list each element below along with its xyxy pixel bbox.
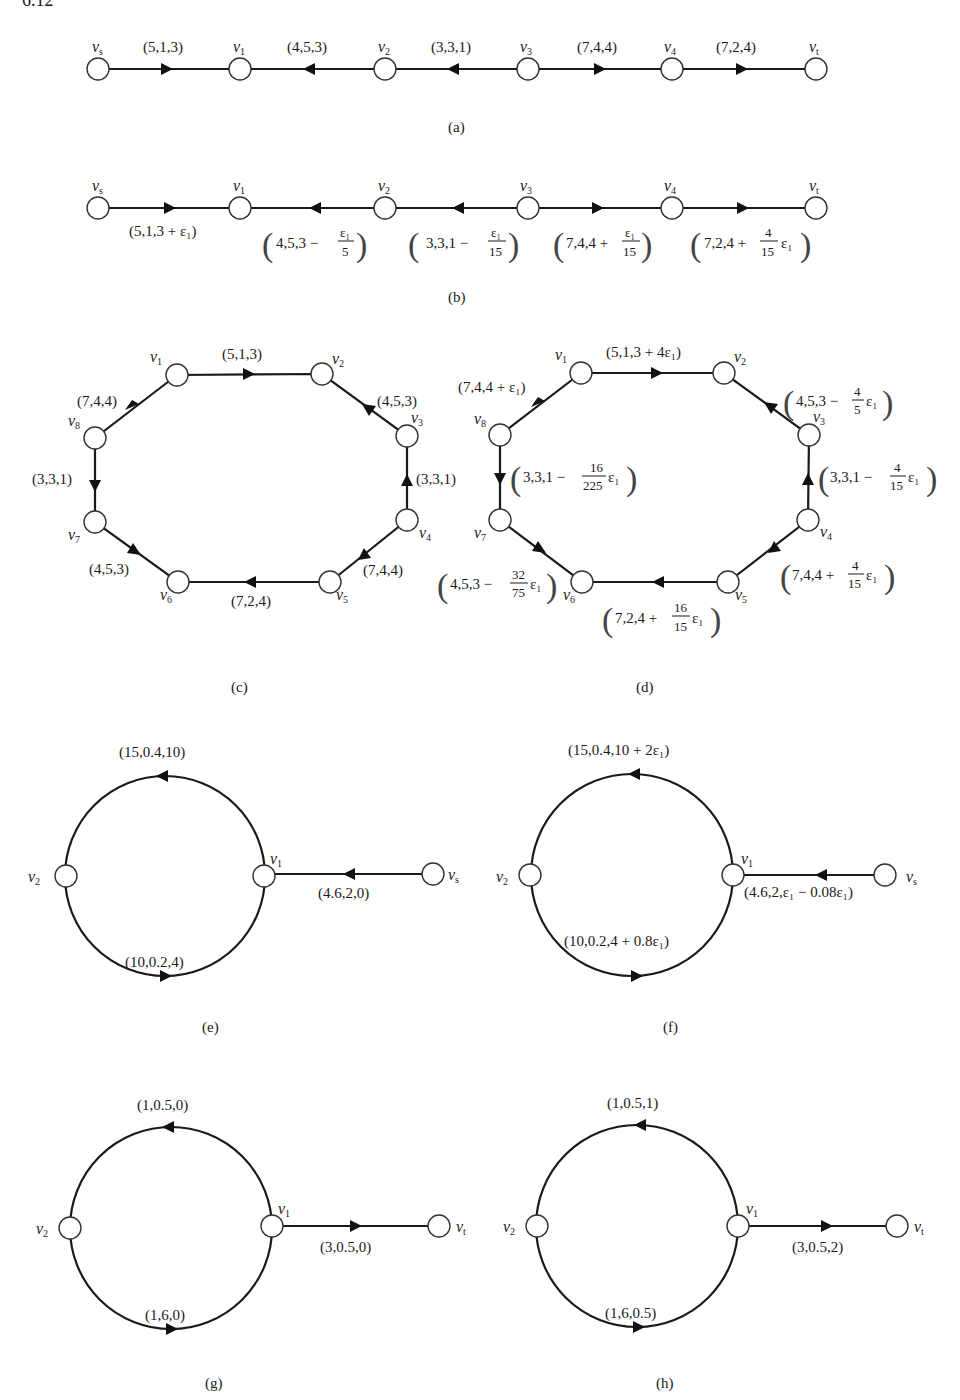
svg-text:15: 15: [890, 478, 903, 493]
svg-text:(: (: [783, 384, 794, 422]
cycle-circle: [536, 1125, 738, 1327]
arrow-up-left-icon: [362, 404, 376, 416]
svg-text:15: 15: [623, 244, 636, 259]
node-v1: [570, 362, 592, 384]
edge-label: (4,5,3): [89, 561, 129, 578]
svg-text:(: (: [437, 567, 448, 605]
svg-text:5: 5: [342, 244, 349, 259]
node-vt: [805, 197, 827, 219]
arrow-right-icon: [737, 202, 749, 214]
arrow-right-icon: [633, 1321, 645, 1333]
svg-text:(: (: [818, 460, 829, 498]
svg-text:): ): [626, 460, 637, 498]
arrow-left-icon: [815, 869, 827, 881]
edge-label-fraction: ( 3,3,1 − 4 15 ε₁ ): [818, 460, 937, 498]
arrow-right-icon: [821, 1220, 833, 1232]
panel-e: v2 v1 vs (15,0.4,10) (10,0.2,4) (4.6,2,0…: [28, 744, 459, 1036]
node-label-v2: v2: [503, 1218, 515, 1237]
svg-text:ε₁: ε₁: [491, 225, 501, 240]
node-label-v2: v2: [378, 38, 390, 57]
svg-text:32: 32: [512, 567, 525, 582]
node-v1: [253, 865, 275, 887]
arrow-left-icon: [244, 576, 256, 588]
panel-caption: (e): [202, 1019, 219, 1036]
svg-text:16: 16: [674, 600, 688, 615]
edge-label: (1,6,0): [145, 1307, 185, 1324]
node-label-v8: v8: [68, 412, 80, 431]
node-label-v1: v1: [150, 348, 162, 367]
arrow-right-icon: [161, 63, 173, 75]
svg-text:3,3,1 −: 3,3,1 −: [426, 235, 468, 251]
node-label-v2: v2: [378, 177, 390, 196]
edge-label: (7,2,4): [231, 593, 271, 610]
node-label-v2: v2: [28, 868, 40, 887]
svg-text:(: (: [553, 226, 564, 264]
node-label-vs: vs: [906, 868, 917, 887]
node-label-vt: vt: [456, 1218, 466, 1237]
node-label-v3: v3: [520, 38, 532, 57]
svg-text:3,3,1 −: 3,3,1 −: [523, 469, 565, 485]
svg-text:225: 225: [583, 478, 603, 493]
arrow-right-icon: [631, 970, 643, 982]
arrow-right-icon: [651, 367, 663, 379]
svg-text:ε₁: ε₁: [692, 610, 704, 626]
node-v1: [727, 1215, 749, 1237]
svg-text:(: (: [510, 460, 521, 498]
node-v3: [396, 425, 418, 447]
arrow-down-icon: [494, 473, 506, 485]
edge-label: (1,0.5,0): [137, 1097, 188, 1114]
edge-label: (3,3,1): [431, 39, 471, 56]
arrow-left-icon: [343, 868, 355, 880]
arrow-right-icon: [736, 63, 748, 75]
edge-label-fraction: ( 4,5,3 − ε₁ 5 ): [262, 225, 367, 264]
panel-caption: (a): [448, 119, 465, 136]
node-v8: [84, 427, 106, 449]
edge-label: (4,5,3): [287, 39, 327, 56]
node-label-vs: vs: [448, 866, 459, 885]
cycle-circle: [65, 776, 265, 976]
panel-a: vs v1 v2 v3 v4 vt (5,1,3) (4,5,3) (3,3,1…: [87, 38, 827, 136]
arrow-right-icon: [592, 202, 604, 214]
svg-text:7,2,4 +: 7,2,4 +: [704, 235, 746, 251]
edge-label: (3,0.5,2): [792, 1239, 843, 1256]
node-v4: [797, 509, 819, 531]
node-v2: [519, 864, 541, 886]
panel-caption: (c): [231, 679, 248, 696]
svg-text:4: 4: [765, 225, 772, 240]
svg-text:ε₁: ε₁: [866, 393, 878, 409]
svg-text:): ): [710, 601, 721, 639]
arrow-left-icon: [634, 1119, 646, 1131]
arrow-left-icon: [309, 202, 321, 214]
node-v1: [166, 364, 188, 386]
node-label-v3: v3: [411, 409, 423, 428]
figure-canvas: 6.12 vs v1 v2 v3 v4 vt (5,1,3) (4,5,3) (…: [0, 0, 960, 1400]
svg-text:): ): [800, 226, 811, 264]
svg-text:): ): [641, 226, 652, 264]
node-label-v4: v4: [664, 38, 676, 57]
svg-text:): ): [884, 558, 895, 596]
edge-label: (1,6,0.5): [605, 1305, 656, 1322]
svg-text:ε₁: ε₁: [908, 469, 920, 485]
svg-text:15: 15: [489, 244, 502, 259]
svg-text:ε₁: ε₁: [781, 235, 793, 251]
edge-label: (5,1,3): [143, 39, 183, 56]
node-label-vt: vt: [914, 1218, 924, 1237]
node-v2: [374, 58, 396, 80]
node-v6: [167, 571, 189, 593]
node-label-v1: v1: [278, 1200, 290, 1219]
node-vs: [87, 197, 109, 219]
arrow-left-icon: [447, 63, 459, 75]
node-v2: [526, 1215, 548, 1237]
arrow-left-icon: [303, 63, 315, 75]
panel-caption: (h): [656, 1375, 674, 1392]
edge-label: (15,0.4,10): [119, 744, 185, 761]
edge-label-fraction: ( 4,5,3 − 32 75 ε₁ ): [437, 567, 557, 605]
svg-text:15: 15: [848, 576, 861, 591]
node-label-v7: v7: [474, 524, 486, 543]
node-vs: [87, 58, 109, 80]
svg-text:75: 75: [512, 585, 525, 600]
node-label-v1: v1: [555, 346, 567, 365]
svg-text:7,4,4 +: 7,4,4 +: [792, 567, 834, 583]
panel-h: v2 v1 vt (1,0.5,1) (1,6,0.5) (3,0.5,2) (…: [503, 1095, 924, 1392]
svg-text:4: 4: [854, 384, 861, 399]
